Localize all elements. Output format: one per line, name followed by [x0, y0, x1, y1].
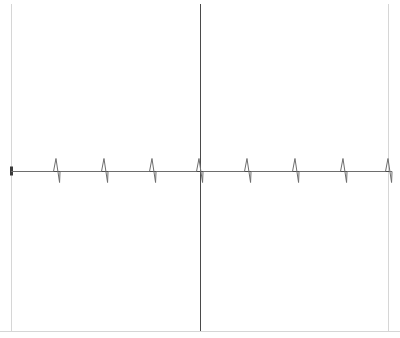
plot-canvas: [0, 0, 400, 338]
plot-figure: [0, 0, 400, 338]
